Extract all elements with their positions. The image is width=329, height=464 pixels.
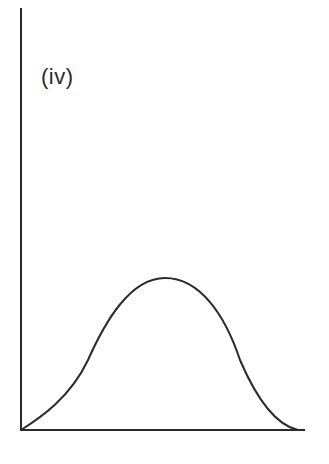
bell-curve (21, 278, 298, 430)
panel-label: (iv) (41, 64, 74, 90)
